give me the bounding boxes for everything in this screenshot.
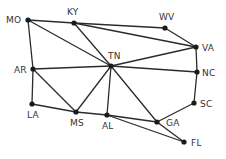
node-label-va: VA — [202, 43, 215, 53]
node-ar — [30, 66, 35, 71]
node-sc — [191, 100, 196, 105]
edge-mo-ky — [28, 20, 74, 23]
edge-tn-nc — [111, 66, 197, 72]
edge-mo-ar — [28, 20, 33, 69]
node-ga — [154, 119, 159, 124]
node-tn — [108, 63, 113, 68]
node-fl — [181, 139, 186, 144]
node-label-fl: FL — [191, 138, 202, 148]
node-al — [104, 112, 109, 117]
node-label-ar: AR — [14, 65, 27, 75]
node-ms — [73, 109, 78, 114]
node-label-sc: SC — [200, 99, 212, 109]
edge-sc-nc — [194, 72, 197, 103]
node-label-ms: MS — [70, 118, 84, 128]
node-label-nc: NC — [202, 68, 215, 78]
edge-al-ga — [107, 115, 157, 122]
node-label-tn: TN — [107, 51, 121, 61]
node-label-la: LA — [27, 110, 39, 120]
node-label-ky: KY — [67, 7, 79, 17]
edge-tn-ga — [111, 66, 157, 122]
edge-va-tn — [111, 47, 196, 66]
edge-va-nc — [196, 47, 197, 72]
node-va — [193, 44, 198, 49]
node-wv — [162, 25, 167, 30]
node-mo — [25, 17, 30, 22]
node-label-ga: GA — [166, 118, 180, 128]
node-label-mo: MO — [6, 15, 21, 25]
edge-tn-ms — [76, 66, 111, 112]
state-adjacency-graph: MOKYWVVATNARNCSCLAMSALGAFL — [0, 0, 226, 159]
node-label-al: AL — [102, 121, 114, 131]
edge-tn-ar — [33, 66, 111, 69]
node-ky — [71, 20, 76, 25]
node-la — [29, 101, 34, 106]
node-label-wv: WV — [159, 12, 175, 22]
node-nc — [194, 69, 199, 74]
edge-mo-tn — [28, 20, 111, 66]
edge-ms-al — [76, 112, 107, 115]
edge-ar-la — [32, 69, 33, 104]
edge-tn-al — [107, 66, 111, 115]
